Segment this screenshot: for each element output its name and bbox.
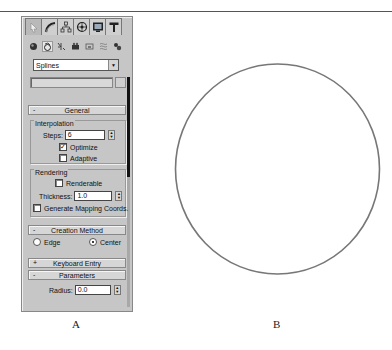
rollout-keyboard-entry-header[interactable]: + Keyboard Entry	[28, 258, 126, 268]
chevron-down-icon[interactable]: ▼	[108, 60, 118, 70]
category-spacewarps[interactable]	[98, 41, 109, 52]
optimize-label: Optimize	[70, 144, 98, 151]
modify-curve-icon	[44, 21, 56, 33]
steps-spinner[interactable]: ▲▼	[108, 130, 115, 140]
steps-row: Steps: 6 ▲▼	[43, 130, 115, 140]
top-divider-line	[0, 11, 392, 12]
hierarchy-icon	[60, 21, 72, 33]
radius-label: Radius:	[49, 287, 73, 294]
radius-row: Radius: 0.0 ▲▼	[49, 285, 121, 295]
edge-radio[interactable]	[33, 238, 41, 246]
rollout-title: Keyboard Entry	[53, 260, 101, 267]
group-title: Interpolation	[34, 120, 75, 127]
optimize-row[interactable]: ✓ Optimize	[59, 143, 98, 151]
dropdown-selected: Splines	[36, 62, 59, 69]
center-radio[interactable]	[89, 238, 97, 246]
tab-utilities[interactable]	[105, 18, 122, 35]
panel-scrollbar-track[interactable]	[127, 177, 130, 307]
object-name-input[interactable]	[30, 77, 113, 88]
helpers-icon	[85, 42, 94, 51]
mapping-checkbox[interactable]	[33, 204, 41, 212]
category-shapes[interactable]	[42, 41, 53, 52]
rollout-parameters-header[interactable]: - Parameters	[28, 270, 126, 280]
command-panel-tabs	[25, 18, 121, 36]
lights-icon	[57, 42, 66, 51]
collapse-icon: -	[33, 271, 35, 279]
renderable-label: Renderable	[66, 180, 102, 187]
rollout-title: Creation Method	[51, 227, 103, 234]
thickness-row: Thickness: 1.0 ▲▼	[39, 191, 122, 201]
spacewarp-icon	[99, 42, 108, 51]
renderable-row[interactable]: Renderable	[55, 179, 102, 187]
tab-hierarchy[interactable]	[57, 18, 74, 35]
object-category-icons	[28, 41, 123, 52]
create-pointer-icon	[28, 21, 40, 33]
rollout-general-header[interactable]: - General	[28, 105, 126, 115]
radius-input[interactable]: 0.0	[75, 285, 111, 295]
category-geometry[interactable]	[28, 41, 39, 52]
display-monitor-icon	[92, 21, 104, 33]
camera-icon	[71, 42, 80, 51]
category-systems[interactable]	[112, 41, 123, 52]
collapse-icon: -	[33, 226, 35, 234]
thickness-input[interactable]: 1.0	[74, 191, 112, 201]
edge-radio-row[interactable]: Edge	[33, 238, 60, 246]
category-helpers[interactable]	[84, 41, 95, 52]
renderable-checkbox[interactable]	[55, 179, 63, 187]
object-type-dropdown[interactable]: Splines ▼	[33, 59, 119, 71]
category-cameras[interactable]	[70, 41, 81, 52]
tab-display[interactable]	[89, 18, 106, 35]
collapse-icon: -	[33, 106, 35, 114]
radius-spinner[interactable]: ▲▼	[114, 285, 121, 295]
adaptive-row[interactable]: Adaptive	[59, 154, 97, 162]
panel-scrollbar-thumb[interactable]	[127, 77, 130, 177]
rollout-title: Parameters	[59, 272, 95, 279]
center-radio-row[interactable]: Center	[89, 238, 121, 246]
rollout-creation-method-header[interactable]: - Creation Method	[28, 225, 126, 235]
center-label: Center	[100, 239, 121, 246]
category-lights[interactable]	[56, 41, 67, 52]
steps-input[interactable]: 6	[65, 130, 105, 140]
thickness-label: Thickness:	[39, 193, 72, 200]
mapping-row[interactable]: Generate Mapping Coords.	[33, 204, 128, 212]
tab-modify[interactable]	[41, 18, 58, 35]
shapes-icon	[43, 42, 52, 51]
object-color-swatch[interactable]	[115, 77, 126, 88]
thickness-spinner[interactable]: ▲▼	[115, 191, 122, 201]
utilities-hammer-icon	[108, 21, 120, 33]
mapping-label: Generate Mapping Coords.	[44, 205, 128, 212]
adaptive-checkbox[interactable]	[59, 154, 67, 162]
caption-b: B	[273, 318, 280, 330]
sphere-icon	[29, 42, 38, 51]
edge-label: Edge	[44, 239, 60, 246]
tab-motion[interactable]	[73, 18, 90, 35]
systems-icon	[113, 42, 122, 51]
optimize-checkbox[interactable]: ✓	[59, 143, 67, 151]
expand-icon: +	[33, 259, 37, 267]
rollout-title: General	[65, 107, 90, 114]
caption-a: A	[72, 318, 80, 330]
steps-label: Steps:	[43, 132, 63, 139]
adaptive-label: Adaptive	[70, 155, 97, 162]
tab-create[interactable]	[25, 18, 42, 35]
group-title: Rendering	[34, 169, 68, 176]
viewport-circle-spline	[174, 63, 381, 275]
command-panel: Splines ▼ - General Interpolation Steps:…	[21, 16, 133, 312]
motion-wheel-icon	[76, 21, 88, 33]
